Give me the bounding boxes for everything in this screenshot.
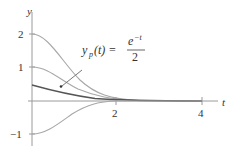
annotation-arrow	[62, 70, 82, 86]
xtick-4-label: 4	[198, 107, 204, 119]
formula-annotation: y p (t) = e −t 2	[81, 33, 145, 64]
xtick-2-label: 2	[112, 107, 118, 119]
formula-num-exp: −t	[134, 33, 142, 42]
formula-subscript-p: p	[88, 50, 93, 59]
curve-y0-1	[32, 67, 202, 101]
y-axis-label: y	[26, 5, 32, 17]
formula-lhs: (t) =	[94, 43, 116, 57]
ytick-2-label: 2	[18, 28, 24, 40]
x-axis-label: t	[222, 96, 226, 108]
annotation-arrowhead	[60, 85, 63, 88]
ytick-m1-label: −1	[10, 128, 22, 140]
chart-canvas: y t 2 1 −1 2 4 y p (t) = e −t 2	[0, 0, 238, 149]
ytick-1-label: 1	[18, 61, 24, 73]
formula-den: 2	[132, 50, 138, 64]
formula-y: y	[81, 43, 88, 57]
